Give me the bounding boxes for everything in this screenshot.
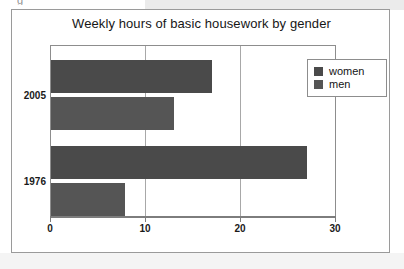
legend-item-women: women xyxy=(314,65,380,77)
y-tick-label-1976: 1976 xyxy=(24,176,46,187)
x-tick-0 xyxy=(50,217,51,222)
x-tick-label-30: 30 xyxy=(329,223,340,234)
chart-legend: women men xyxy=(307,59,387,97)
gridline-20 xyxy=(240,46,241,217)
x-tick-10 xyxy=(145,217,146,222)
bar-1976-men xyxy=(51,183,125,216)
bar-2005-men xyxy=(51,97,174,130)
y-tick-label-2005: 2005 xyxy=(24,90,46,101)
scan-background-tint-bottom xyxy=(0,253,404,269)
legend-label-women: women xyxy=(329,65,364,77)
x-axis-line xyxy=(50,216,336,218)
x-tick-30 xyxy=(335,217,336,222)
legend-label-men: men xyxy=(329,78,350,90)
x-tick-label-0: 0 xyxy=(47,223,53,234)
plot-area xyxy=(50,45,336,217)
x-tick-label-20: 20 xyxy=(234,223,245,234)
chart-title: Weekly hours of basic housework by gende… xyxy=(12,16,391,31)
x-tick-20 xyxy=(240,217,241,222)
bar-2005-women xyxy=(51,60,212,93)
bar-1976-women xyxy=(51,146,307,179)
legend-swatch-men-icon xyxy=(314,80,323,89)
x-tick-label-10: 10 xyxy=(139,223,150,234)
scan-edge-glyph: g xyxy=(17,0,29,5)
chart-figure: Weekly hours of basic housework by gende… xyxy=(11,9,390,253)
legend-swatch-women-icon xyxy=(314,67,323,76)
legend-item-men: men xyxy=(314,78,380,90)
